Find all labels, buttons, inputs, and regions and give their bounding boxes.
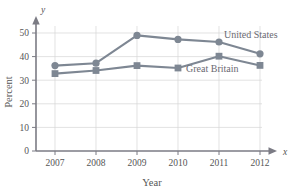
- data-point: [174, 36, 181, 43]
- data-point: [216, 53, 223, 60]
- x-tick-labels: 2007 2008 2009 2010 2011 2012: [46, 158, 270, 168]
- chart-figure: 50 40 30 20 10 0 2007 2008 2009 2010 201…: [0, 0, 296, 196]
- x-tick-label: 2009: [128, 158, 147, 168]
- y-axis-variable-label: y: [40, 5, 46, 15]
- line-chart: 50 40 30 20 10 0 2007 2008 2009 2010 201…: [0, 0, 296, 196]
- x-tick-label: 2012: [251, 158, 270, 168]
- series-label-great-britain: Great Britain: [186, 63, 238, 74]
- data-point: [133, 32, 140, 39]
- y-tick-label: 40: [20, 52, 30, 62]
- x-axis-variable-label: x: [282, 147, 288, 157]
- data-point: [52, 70, 59, 77]
- y-tick-label: 30: [20, 76, 30, 86]
- data-point: [215, 38, 222, 45]
- data-point: [134, 62, 141, 69]
- y-tick-label: 50: [20, 28, 30, 38]
- data-point: [93, 67, 100, 74]
- data-point: [175, 65, 182, 72]
- x-tick-label: 2008: [87, 158, 106, 168]
- x-tick-label: 2011: [210, 158, 229, 168]
- x-axis-title: Year: [142, 177, 162, 188]
- data-point: [257, 62, 264, 69]
- data-point: [92, 60, 99, 67]
- y-axis-title: Percent: [3, 76, 14, 108]
- y-tick-label: 10: [20, 123, 30, 133]
- series-label-united-states: United States: [224, 29, 278, 40]
- x-axis: [36, 147, 277, 154]
- horizontal-gridlines: [36, 33, 262, 127]
- x-tick-label: 2010: [169, 158, 188, 168]
- data-point: [256, 50, 263, 57]
- y-axis: [32, 16, 39, 151]
- x-tick-label: 2007: [46, 158, 65, 168]
- data-point: [51, 62, 58, 69]
- y-tick-labels: 50 40 30 20 10 0: [20, 28, 30, 156]
- y-tick-label: 0: [24, 146, 29, 156]
- y-tick-label: 20: [20, 99, 30, 109]
